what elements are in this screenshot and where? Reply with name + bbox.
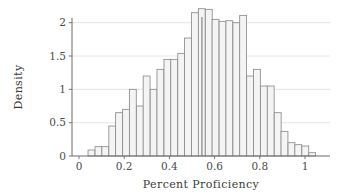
histogram-bar [116,113,123,156]
histogram-plot: 00.20.40.60.81 00.511.52 Percent Profici… [0,0,347,196]
y-tick-label: 1.5 [49,50,66,62]
x-tick-label: 0.4 [161,160,178,172]
histogram-bar [295,145,302,156]
histogram-bar [157,69,164,156]
histogram-bar [240,15,247,156]
histogram-figure: 00.20.40.60.81 00.511.52 Percent Profici… [0,0,347,196]
x-tick-label: 0.6 [206,160,223,172]
y-tick-label: 2 [59,16,66,28]
histogram-bar [260,86,267,156]
histogram-bar [129,89,136,156]
x-axis-title: Percent Proficiency [143,178,260,191]
histogram-bar [288,143,295,156]
histogram-bar [274,113,281,156]
histogram-bar [136,106,143,156]
histogram-bar [267,86,274,156]
x-tick-label: 1 [302,160,309,172]
histogram-bar [185,38,192,156]
x-tick-label: 0.2 [116,160,133,172]
histogram-bar [171,59,178,156]
histogram-bar [212,19,219,156]
histogram-bar [150,89,157,156]
x-tick-labels-group: 00.20.40.60.81 [76,156,309,172]
histogram-bar [143,76,150,156]
histogram-bar [281,131,288,156]
y-axis-title: Density [12,64,25,109]
x-tick-label: 0.8 [251,160,268,172]
y-tick-label: 0 [59,150,66,162]
histogram-bar [226,21,233,156]
histogram-bar [164,59,171,156]
histogram-bar [205,9,212,156]
histogram-bar [178,53,185,156]
histogram-bar [109,126,116,156]
y-tick-label: 0.5 [49,116,66,128]
y-tick-labels-group: 00.511.52 [49,16,72,161]
histogram-bar [247,76,254,156]
x-tick-label: 0 [76,160,83,172]
histogram-bar [88,150,95,156]
histogram-bar [95,147,102,156]
histogram-bar [102,147,109,156]
histogram-bar [302,146,309,156]
histogram-bar [233,23,240,156]
histogram-bar [219,21,226,156]
histogram-bar [123,109,130,156]
histogram-bar [192,13,199,156]
histogram-bar [253,69,260,156]
y-tick-label: 1 [59,83,66,95]
